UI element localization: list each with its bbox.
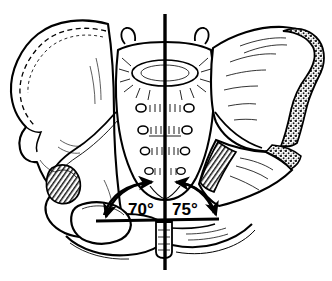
left-obturator-foramen xyxy=(71,202,131,244)
left-angle-label: 70° xyxy=(128,200,154,219)
horizontal-reference-baseline xyxy=(96,219,219,221)
pelvis-illustration-svg: 70° 75° xyxy=(0,0,332,281)
right-angle-label: 75° xyxy=(172,200,198,219)
pelvis-figure: 70° 75° xyxy=(0,0,332,281)
